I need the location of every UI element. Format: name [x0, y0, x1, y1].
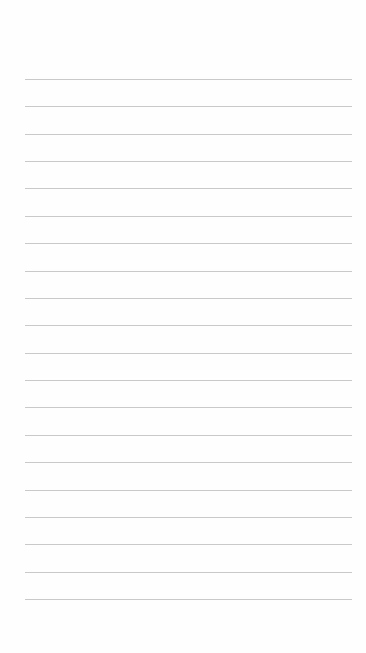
- ruled-line: [25, 188, 352, 189]
- ruled-line: [25, 490, 352, 491]
- ruled-line: [25, 407, 352, 408]
- lined-paper-sheet: [0, 0, 366, 653]
- ruled-line: [25, 161, 352, 162]
- ruled-line: [25, 353, 352, 354]
- ruled-line: [25, 544, 352, 545]
- ruled-line: [25, 517, 352, 518]
- ruled-line: [25, 325, 352, 326]
- ruled-line: [25, 134, 352, 135]
- ruled-line: [25, 298, 352, 299]
- ruled-line: [25, 435, 352, 436]
- ruled-line: [25, 106, 352, 107]
- ruled-line: [25, 243, 352, 244]
- ruled-line: [25, 79, 352, 80]
- ruled-line: [25, 271, 352, 272]
- ruled-line: [25, 599, 352, 600]
- ruled-line: [25, 216, 352, 217]
- ruled-line: [25, 572, 352, 573]
- ruled-line: [25, 380, 352, 381]
- ruled-line: [25, 462, 352, 463]
